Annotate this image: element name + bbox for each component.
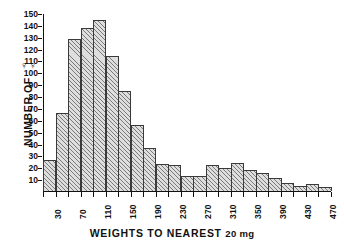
- x-axis-title-main: WEIGHTS TO NEAREST: [90, 227, 222, 239]
- histogram-bar: [293, 186, 306, 191]
- x-axis-tick-labels: 3070110150190230270310350390430470: [43, 197, 331, 223]
- y-tick-label: 150: [14, 10, 38, 18]
- x-axis-title: WEIGHTS TO NEAREST 20 mg: [0, 227, 344, 239]
- histogram-bar: [181, 176, 194, 191]
- histogram-bar: [143, 148, 156, 191]
- histogram-bar: [81, 28, 94, 191]
- histogram-bar: [218, 168, 231, 191]
- histogram-bar: [156, 164, 169, 191]
- y-tick-label: 90: [14, 81, 38, 89]
- x-tick-label: 470: [328, 204, 338, 219]
- histogram-bar: [256, 173, 269, 191]
- x-tick-label: 70: [78, 209, 88, 219]
- y-tick-mark: [38, 50, 42, 51]
- histogram-bar: [231, 163, 244, 191]
- histogram-bar: [268, 178, 281, 191]
- histogram-bar: [43, 160, 56, 191]
- x-tick-label: 350: [253, 204, 263, 219]
- y-tick-label: 10: [14, 176, 38, 184]
- y-tick-mark: [38, 97, 42, 98]
- histogram-bar: [118, 91, 131, 191]
- y-tick-mark: [38, 121, 42, 122]
- x-tick-label: 230: [178, 204, 188, 219]
- y-tick-label: 140: [14, 22, 38, 30]
- y-axis-ticks: 150140130120110100908070605040302010: [0, 0, 38, 245]
- x-tick-label: 430: [303, 204, 313, 219]
- y-tick-label: 60: [14, 117, 38, 125]
- histogram-bar: [68, 39, 81, 191]
- y-tick-mark: [38, 85, 42, 86]
- y-tick-mark: [38, 38, 42, 39]
- y-tick-mark: [38, 156, 42, 157]
- y-tick-label: 40: [14, 141, 38, 149]
- x-axis-title-unit: 20 mg: [225, 228, 254, 239]
- histogram-bar: [281, 183, 294, 191]
- histogram-bar: [306, 184, 319, 191]
- histogram-bar: [56, 113, 69, 191]
- x-tick-label: 390: [278, 204, 288, 219]
- x-tick-label: 270: [203, 204, 213, 219]
- y-tick-label: 30: [14, 152, 38, 160]
- histogram-bar: [318, 187, 331, 191]
- x-tick-label: 310: [228, 204, 238, 219]
- y-tick-label: 110: [14, 57, 38, 65]
- y-tick-mark: [38, 73, 42, 74]
- y-tick-mark: [38, 109, 42, 110]
- plot-area: [43, 14, 331, 192]
- histogram-figure: NUMBER OF ♀♀ 150140130120110100908070605…: [0, 0, 344, 245]
- histogram-bar: [168, 165, 181, 191]
- y-tick-mark: [38, 168, 42, 169]
- y-tick-label: 100: [14, 69, 38, 77]
- y-tick-mark: [38, 145, 42, 146]
- histogram-bars: [43, 14, 331, 191]
- x-tick-mark: [331, 192, 332, 197]
- histogram-bar: [106, 56, 119, 191]
- y-tick-label: 130: [14, 34, 38, 42]
- x-tick-label: 150: [128, 204, 138, 219]
- histogram-bar: [131, 125, 144, 191]
- y-tick-label: 80: [14, 93, 38, 101]
- y-tick-mark: [38, 180, 42, 181]
- y-tick-label: 70: [14, 105, 38, 113]
- y-tick-label: 50: [14, 129, 38, 137]
- y-tick-mark: [38, 61, 42, 62]
- histogram-bar: [243, 170, 256, 191]
- y-tick-label: 120: [14, 46, 38, 54]
- histogram-bar: [93, 20, 106, 191]
- y-tick-mark: [38, 26, 42, 27]
- x-tick-label: 110: [103, 205, 113, 219]
- y-tick-label: 20: [14, 164, 38, 172]
- y-tick-mark: [38, 14, 42, 15]
- x-tick-label: 30: [53, 209, 63, 219]
- histogram-bar: [206, 165, 219, 191]
- y-tick-mark: [38, 133, 42, 134]
- x-tick-label: 190: [153, 204, 163, 219]
- histogram-bar: [193, 176, 206, 191]
